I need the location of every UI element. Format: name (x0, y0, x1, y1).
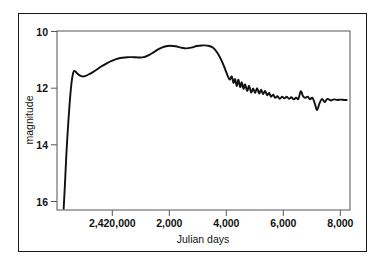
x-tick-label-1: 2,000 (156, 217, 182, 229)
y-axis-title: magnitude (23, 95, 35, 144)
y-tick-label-0: 10 (36, 26, 48, 38)
x-tick-label-3: 6,000 (270, 217, 296, 229)
figure-container: 10 12 14 16 2,420,000 2,000 4,000 6,000 … (0, 0, 385, 265)
x-tick-label-2: 4,000 (213, 217, 239, 229)
y-axis-ticks (51, 32, 57, 202)
x-tick-label-0: 2,420,000 (89, 217, 136, 229)
plot-frame (57, 31, 350, 210)
x-tick-label-4: 8,000 (327, 217, 353, 229)
y-axis-tick-labels: 10 12 14 16 (36, 26, 48, 208)
light-curve-chart: 10 12 14 16 2,420,000 2,000 4,000 6,000 … (0, 0, 385, 265)
y-tick-label-2: 14 (36, 139, 48, 151)
x-axis-title: Julian days (177, 233, 230, 245)
y-tick-label-3: 16 (36, 196, 48, 208)
x-axis-tick-labels: 2,420,000 2,000 4,000 6,000 8,000 (89, 217, 354, 229)
y-tick-label-1: 12 (36, 82, 48, 94)
light-curve-path (64, 45, 347, 208)
x-axis-ticks (112, 210, 340, 216)
